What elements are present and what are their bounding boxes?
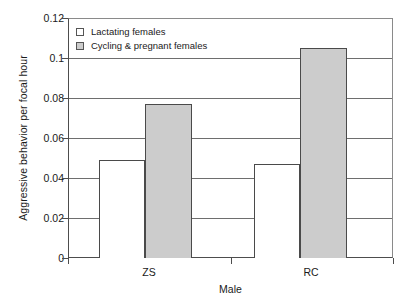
x-tick-label-rc: RC: [281, 266, 341, 279]
bar-zs-cycling-pregnant[interactable]: [145, 104, 192, 258]
bar-rc-lactating[interactable]: [254, 164, 300, 258]
legend-item-cycling-pregnant[interactable]: Cycling & pregnant females: [76, 39, 207, 52]
y-axis-tick-labels: 0 0.02 0.04 0.06 0.08 0.1 0.12: [28, 0, 64, 301]
x-tick-mark-right: [393, 258, 394, 264]
legend-label-lactating: Lactating females: [91, 26, 165, 37]
x-tick-label-zs: ZS: [119, 266, 179, 279]
x-axis-title: Male: [68, 283, 393, 296]
x-tick-mark-middle: [231, 258, 232, 264]
legend-item-lactating[interactable]: Lactating females: [76, 25, 207, 38]
x-tick-mark-left: [68, 258, 69, 264]
bars-layer: [68, 18, 393, 258]
filled-square-icon: [76, 42, 84, 50]
bar-zs-lactating[interactable]: [99, 160, 145, 258]
y-tick-label-01: 0.1: [30, 53, 64, 64]
y-tick-label-006: 0.06: [30, 133, 64, 144]
legend: Lactating females Cycling & pregnant fem…: [76, 25, 207, 53]
bar-rc-cycling-pregnant[interactable]: [300, 48, 347, 258]
y-tick-label-002: 0.02: [30, 213, 64, 224]
bar-chart-figure: Aggressive behavior per focal hour 0 0.0…: [0, 0, 406, 301]
legend-label-cycling-pregnant: Cycling & pregnant females: [91, 40, 207, 51]
y-tick-label-012: 0.12: [30, 13, 64, 24]
y-tick-label-008: 0.08: [30, 93, 64, 104]
y-tick-label-004: 0.04: [30, 173, 64, 184]
y-tick-label-0: 0: [30, 253, 64, 264]
open-square-icon: [76, 28, 84, 36]
